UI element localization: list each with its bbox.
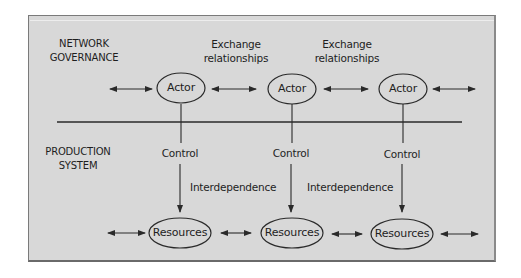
actor-label-1: Actor: [157, 81, 205, 95]
exchange-relationships-label-2: Exchange relationships: [307, 37, 387, 65]
network-governance-line1: NETWORK: [44, 37, 124, 51]
exchange-label-2-line1: Exchange: [307, 37, 387, 51]
control-label-1: Control: [150, 146, 210, 160]
exchange-label-1-line1: Exchange: [196, 37, 276, 51]
resources-label-1: Resources: [149, 226, 211, 240]
network-governance-label: NETWORK GOVERNANCE: [44, 37, 124, 65]
actor-label-2: Actor: [268, 82, 316, 96]
network-governance-line2: GOVERNANCE: [44, 51, 124, 65]
exchange-relationships-label-1: Exchange relationships: [196, 37, 276, 65]
production-system-line2: SYSTEM: [38, 159, 118, 173]
exchange-label-1-line2: relationships: [196, 51, 276, 65]
resources-label-3: Resources: [371, 227, 433, 241]
actor-label-3: Actor: [379, 82, 427, 96]
production-system-line1: PRODUCTION: [38, 145, 118, 159]
interdependence-label-1: Interdependence: [190, 180, 280, 194]
interdependence-label-2: Interdependence: [307, 180, 397, 194]
production-system-label: PRODUCTION SYSTEM: [38, 145, 118, 173]
resources-label-2: Resources: [261, 226, 323, 240]
exchange-label-2-line2: relationships: [307, 51, 387, 65]
control-label-2: Control: [261, 146, 321, 160]
control-label-3: Control: [372, 147, 432, 161]
